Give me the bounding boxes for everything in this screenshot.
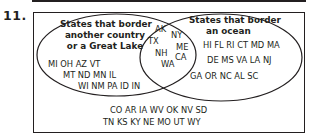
outside-row: TN KS KY NE MO UT WY <box>103 117 201 127</box>
right-title-line: States that border <box>185 15 301 26</box>
left-only-row: WI NM PA ID IN <box>78 81 140 91</box>
intersection-item: AK <box>155 24 166 34</box>
outside-row: CO AR IA WV OK NV SD <box>110 105 207 115</box>
intersection-item: TX <box>148 36 159 46</box>
left-title-line: States that border <box>60 19 150 30</box>
right-title-line: an ocean <box>185 26 301 37</box>
right-only-row: DE MS VA LA NJ <box>207 55 272 65</box>
left-only-row: MI OH AZ VT <box>48 59 100 69</box>
left-title-line: or a Great Lake <box>60 41 150 52</box>
left-title-line: another country <box>60 30 150 41</box>
intersection-item: WA <box>161 59 174 69</box>
intersection-item: NY <box>171 30 182 40</box>
right-only-row: GA OR NC AL SC <box>190 71 258 81</box>
right-set-title: States that border an ocean <box>185 15 301 37</box>
right-only-row: HI FL RI CT MD MA <box>203 40 280 50</box>
intersection-item: ME <box>176 42 188 52</box>
left-only-row: MT ND MN IL <box>63 70 116 80</box>
intersection-item: CA <box>175 52 186 62</box>
intersection-item: NH <box>155 48 167 58</box>
left-set-title: States that border another country or a … <box>60 19 150 52</box>
